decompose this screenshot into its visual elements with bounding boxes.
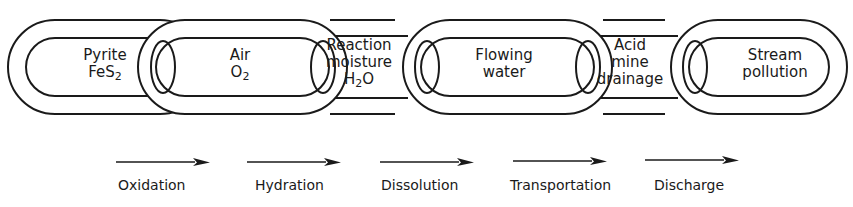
acid-mine-drainage-chain-diagram: Pyrite FeS2 Air O2 Reaction moisture H2O… — [0, 0, 853, 207]
label-line-formula: H2O — [318, 71, 400, 92]
arrow-right-icon — [115, 155, 215, 169]
arrow-right-icon — [512, 154, 612, 168]
label-line-formula: FeS2 — [55, 64, 155, 85]
formula-subscript: 2 — [242, 70, 249, 83]
formula-suffix: O — [362, 70, 374, 88]
label-line: Stream — [725, 47, 825, 64]
label-line: moisture — [318, 54, 400, 71]
formula-text: O — [231, 63, 243, 81]
process-label: Hydration — [255, 177, 324, 193]
process-label: Discharge — [654, 177, 724, 193]
process-label: Transportation — [510, 177, 611, 193]
formula-text: FeS — [88, 63, 115, 81]
label-line: Pyrite — [55, 47, 155, 64]
link-label-flowing-water: Flowing water — [460, 47, 548, 81]
link-label-air: Air O2 — [195, 47, 285, 85]
label-line: Acid — [590, 37, 670, 54]
label-line: drainage — [590, 71, 670, 88]
arrow-right-icon — [246, 155, 346, 169]
label-line: Reaction — [318, 37, 400, 54]
label-line: mine — [590, 54, 670, 71]
process-label: Oxidation — [118, 177, 185, 193]
label-line: Air — [195, 47, 285, 64]
label-line-formula: O2 — [195, 64, 285, 85]
formula-subscript: 2 — [115, 70, 122, 83]
link-label-reaction-moisture: Reaction moisture H2O — [318, 37, 400, 92]
link-label-stream-pollution: Stream pollution — [725, 47, 825, 81]
formula-text: H — [344, 70, 355, 88]
arrow-right-icon — [379, 155, 479, 169]
label-line: pollution — [725, 64, 825, 81]
label-line: Flowing — [460, 47, 548, 64]
arrow-right-icon — [644, 153, 744, 167]
link-label-pyrite: Pyrite FeS2 — [55, 47, 155, 85]
process-label: Dissolution — [381, 177, 458, 193]
link-label-acid-mine-drainage: Acid mine drainage — [590, 37, 670, 88]
label-line: water — [460, 64, 548, 81]
